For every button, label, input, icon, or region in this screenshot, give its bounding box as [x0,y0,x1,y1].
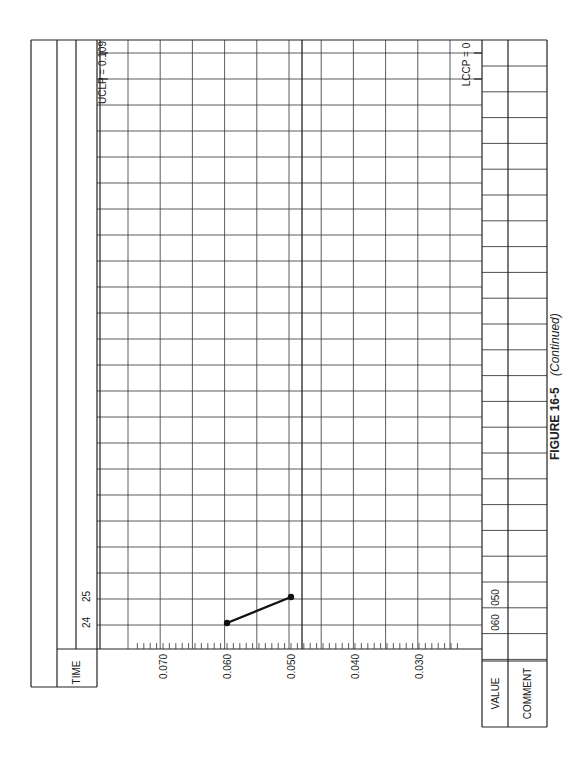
value-axis-tick-label: 0.050 [286,647,297,687]
control-chart [0,0,580,759]
value-header-label: VALUE [490,671,501,717]
lcl-label: LCCP = 0 [461,40,472,90]
value-entry: 060 [490,609,501,637]
series-line [227,597,291,623]
value-axis-tick-label: 0.070 [158,647,169,687]
data-point [224,620,230,626]
value-axis-tick-label: 0.040 [350,647,361,687]
time-header-label: TIME [71,653,82,693]
time-label: 25 [81,585,92,609]
ucl-label: UCLP = 0.109 [97,37,108,109]
figure-note: (Continued) [548,313,562,376]
value-entry: 050 [490,583,501,611]
value-axis-tick-label: 0.060 [222,647,233,687]
value-axis-ticks [137,643,457,649]
time-label: 24 [81,611,92,635]
chart-grid [97,40,547,659]
figure-caption: FIGURE 16-5 (Continued) [548,200,568,460]
data-point [288,594,294,600]
figure-number: FIGURE 16-5 [548,387,562,460]
value-axis-tick-label: 0.030 [414,647,425,687]
comment-header-label: COMMENT [522,664,533,724]
